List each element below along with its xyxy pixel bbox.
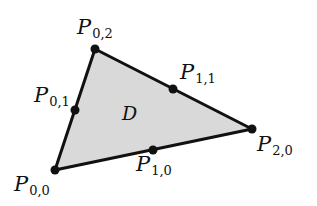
label-p-0-0: P0,0 [14, 174, 50, 197]
label-subscript: 1,1 [195, 71, 216, 86]
label-subscript: 2,0 [272, 143, 293, 158]
label-letter: P [14, 172, 28, 196]
label-subscript: 0,1 [49, 94, 70, 109]
label-p-0-1: P0,1 [34, 85, 70, 108]
label-p-1-0: P1,0 [136, 154, 172, 177]
point-0-2-dot-icon [91, 45, 100, 54]
label-subscript: 0,2 [92, 26, 113, 41]
label-letter: P [257, 132, 271, 156]
point-0-0-dot-icon [51, 166, 60, 175]
label-subscript: 0,0 [29, 183, 50, 198]
label-letter: P [77, 15, 91, 39]
label-subscript: 1,0 [151, 163, 172, 178]
label-p-1-1: P1,1 [180, 62, 216, 85]
label-letter: P [136, 152, 150, 176]
point-0-1-dot-icon [71, 106, 80, 115]
label-letter: P [180, 60, 194, 84]
point-1-1-dot-icon [169, 85, 178, 94]
label-letter: P [34, 83, 48, 107]
region-label: D [122, 104, 137, 123]
label-p-0-2: P0,2 [77, 17, 113, 40]
point-2-0-dot-icon [248, 125, 257, 134]
triangle-diagram: P0,0P1,0P2,0P0,1P1,1P0,2 D [0, 0, 317, 206]
label-p-2-0: P2,0 [257, 134, 293, 157]
